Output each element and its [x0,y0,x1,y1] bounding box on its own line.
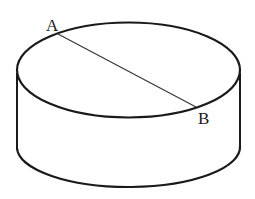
point-a-label: A [46,16,59,35]
bottom-face-arc [17,146,240,187]
cylinder-diagram: A B [0,0,255,199]
segment-ab [58,34,196,107]
top-face-ellipse [17,23,240,118]
point-b-label: B [198,109,209,128]
